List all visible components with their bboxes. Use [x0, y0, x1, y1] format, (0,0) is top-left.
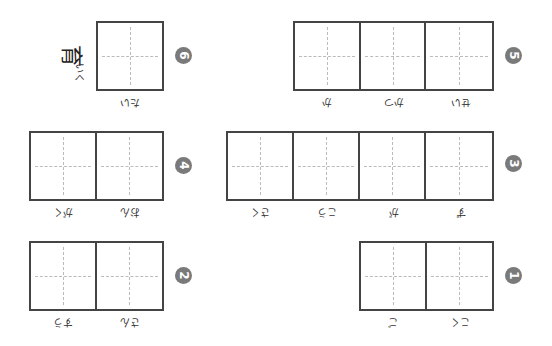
answer-cell[interactable] [426, 23, 492, 89]
furigana: さん [96, 316, 163, 331]
answer-cell[interactable] [361, 243, 427, 309]
answer-grid-2[interactable] [29, 241, 164, 311]
furigana: すう [29, 316, 96, 331]
furigana: か [293, 96, 360, 111]
answer-cell[interactable] [294, 133, 360, 199]
furigana: がく [29, 206, 96, 221]
question-number-5: 5 [505, 47, 522, 64]
furigana: さく [226, 206, 293, 221]
furigana: せい [427, 96, 494, 111]
answer-cell[interactable] [295, 23, 361, 89]
furigana: ご [359, 316, 426, 331]
answer-cell[interactable] [31, 243, 97, 309]
furigana: かつ [360, 96, 427, 111]
answer-cell[interactable] [427, 243, 492, 309]
answer-grid-5[interactable] [293, 21, 494, 91]
question-number-3: 3 [505, 155, 522, 172]
question-number-6: 6 [175, 47, 192, 64]
answer-grid-3[interactable] [226, 131, 494, 201]
answer-cell[interactable] [97, 133, 162, 199]
answer-grid-4[interactable] [29, 131, 164, 201]
question-number-4: 4 [175, 157, 192, 174]
answer-grid-1[interactable] [359, 241, 494, 311]
answer-grid-6[interactable] [96, 21, 164, 91]
furigana: が [360, 206, 427, 221]
answer-cell[interactable] [361, 23, 427, 89]
given-okurigana: いく [73, 63, 88, 83]
furigana: たい [96, 96, 163, 111]
question-number-1: 1 [505, 267, 522, 284]
answer-cell[interactable] [31, 133, 97, 199]
answer-cell[interactable] [360, 133, 426, 199]
furigana: おん [96, 206, 163, 221]
answer-cell[interactable] [228, 133, 294, 199]
answer-cell[interactable] [426, 133, 492, 199]
answer-cell[interactable] [97, 243, 162, 309]
furigana: ず [427, 206, 494, 221]
furigana: こう [293, 206, 360, 221]
furigana: こく [426, 316, 493, 331]
question-number-2: 2 [175, 267, 192, 284]
answer-cell[interactable] [98, 23, 162, 89]
